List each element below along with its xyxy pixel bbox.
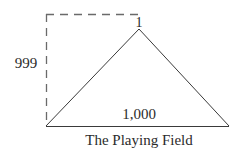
base-label: 1,000 — [122, 106, 156, 122]
apex-label: 1 — [136, 15, 143, 30]
caption: The Playing Field — [85, 132, 193, 148]
playing-field-diagram: 1 999 1,000 The Playing Field — [0, 0, 246, 156]
height-label: 999 — [15, 55, 38, 71]
